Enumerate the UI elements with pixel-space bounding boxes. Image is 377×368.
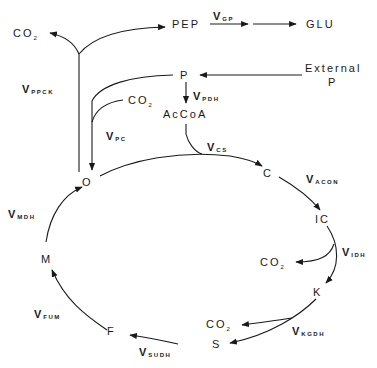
node-co2-idh: CO2 xyxy=(260,256,286,270)
accoa-to-cs-line xyxy=(186,124,202,154)
node-co2-top: CO2 xyxy=(13,27,39,41)
flux-label-pdh: VPDH xyxy=(193,90,220,102)
ppck-to-co2-arrow xyxy=(50,33,79,54)
flux-label-sudh: VSUDH xyxy=(139,346,171,358)
node-accoa: AcCoA xyxy=(163,108,207,120)
acon-arrow xyxy=(279,177,320,210)
flux-label-idh: VIDH xyxy=(342,246,366,258)
node-f: F xyxy=(107,325,116,337)
cs-arrow xyxy=(100,154,262,176)
flux-label-cs: VCS xyxy=(207,141,228,153)
node-m: M xyxy=(41,253,52,265)
node-s: S xyxy=(212,338,221,350)
node-ic: IC xyxy=(315,213,330,225)
node-k: K xyxy=(313,286,322,298)
node-c: C xyxy=(263,167,273,179)
flux-label-ppck: VPPCK xyxy=(22,83,54,95)
node-co2-pc: CO2 xyxy=(128,94,154,108)
flux-label-acon: VACON xyxy=(306,173,339,185)
ppck-to-pep-arrow xyxy=(79,27,165,54)
kgdh-co2-branch xyxy=(242,318,292,325)
node-p: P xyxy=(180,69,189,81)
sudh-arrow xyxy=(130,335,178,344)
flux-label-kgdh: VKGDH xyxy=(292,325,325,337)
node-pep: PEP xyxy=(172,18,200,30)
metabolic-flux-diagram: CO2 PEP GLU P External P CO2 AcCoA O C I… xyxy=(0,0,377,368)
fum-arrow xyxy=(52,270,107,330)
pc-co2-join xyxy=(92,100,123,122)
mdh-arrow xyxy=(46,187,82,242)
flux-label-gp: VGP xyxy=(213,10,234,22)
node-external-p-line2: P xyxy=(328,76,337,88)
node-o: O xyxy=(82,176,93,188)
idh-co2-branch xyxy=(296,244,334,262)
flux-label-pc: VPC xyxy=(106,130,127,142)
node-co2-kgdh: CO2 xyxy=(206,318,232,332)
node-glu: GLU xyxy=(306,18,335,30)
flux-label-fum: VFUM xyxy=(34,308,61,320)
node-external-p-line1: External xyxy=(305,62,361,74)
flux-label-mdh: VMDH xyxy=(8,208,36,220)
